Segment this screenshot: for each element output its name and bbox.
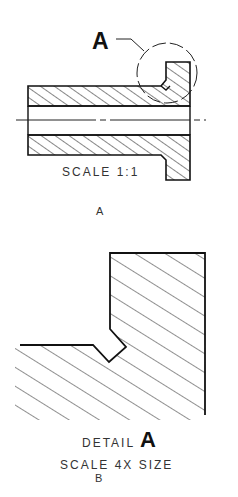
view-caption-b: B [95, 472, 104, 484]
detail-word: DETAIL [82, 436, 135, 450]
scale-label-1to1: SCALE 1:1 [62, 165, 139, 179]
view-caption-a: A [96, 205, 105, 217]
callout-letter-a: A [92, 28, 109, 55]
callout-leader [116, 39, 144, 51]
upper-section-hatch [28, 62, 190, 106]
scale-label-4x: SCALE 4X SIZE [60, 458, 173, 472]
detail-view [15, 253, 205, 420]
detail-title: DETAIL A [82, 427, 156, 453]
detail-letter-a: A [140, 427, 156, 452]
section-view-full [16, 39, 206, 180]
drawing-canvas [0, 0, 238, 497]
